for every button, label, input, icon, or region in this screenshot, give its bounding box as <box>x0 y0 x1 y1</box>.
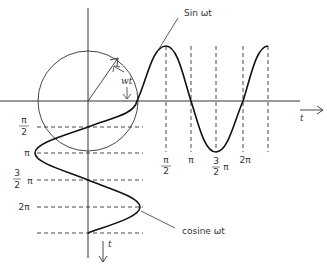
sine-curve <box>137 46 268 152</box>
x-gridlines <box>166 46 268 152</box>
svg-text:3: 3 <box>14 168 20 178</box>
svg-text:2: 2 <box>21 127 27 137</box>
svg-text:2: 2 <box>14 180 20 190</box>
t-label-vertical: t <box>108 239 112 249</box>
svg-text:2: 2 <box>213 167 219 177</box>
svg-text:π: π <box>223 162 229 172</box>
svg-text:π: π <box>27 176 33 186</box>
svg-text:π: π <box>21 115 27 125</box>
radius-vector <box>88 58 118 101</box>
sine-label: Sin ωt <box>184 8 212 18</box>
svg-text:π: π <box>163 155 169 165</box>
phasor-diagram: wt Sin ωt cosine ωt t t π 2 π 3 2 π <box>0 0 327 266</box>
svg-text:2: 2 <box>163 166 169 176</box>
y-tick-labels: π 2 π 3 2 π 2π <box>13 115 33 212</box>
svg-text:3: 3 <box>213 156 219 166</box>
svg-text:π: π <box>24 148 30 158</box>
svg-text:2π: 2π <box>239 155 251 165</box>
svg-text:π: π <box>188 155 194 165</box>
x-tick-labels: π 2 π 3 2 π 2π <box>161 155 251 177</box>
cosine-label: cosine ωt <box>182 226 225 236</box>
angle-label: wt <box>121 76 133 86</box>
t-label-horizontal: t <box>300 113 304 123</box>
svg-text:2π: 2π <box>18 202 30 212</box>
